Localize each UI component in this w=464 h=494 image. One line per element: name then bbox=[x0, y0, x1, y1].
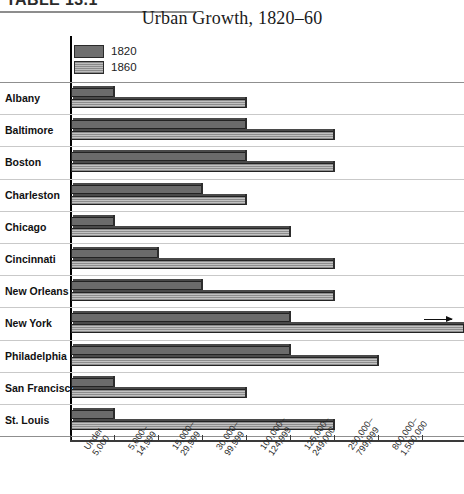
chart-legend: 1820 1860 bbox=[74, 44, 137, 76]
bar-1860-albany bbox=[71, 99, 247, 108]
bar-top-face bbox=[73, 226, 291, 228]
x-axis-tick-label: Under5,000 bbox=[82, 426, 112, 458]
bar-top-face bbox=[73, 247, 159, 249]
bar-1860-baltimore bbox=[71, 131, 335, 140]
legend-item-1820: 1820 bbox=[74, 44, 137, 58]
bar-top-face bbox=[73, 387, 247, 389]
bar-1820-philadelphia bbox=[71, 346, 291, 355]
bar-end-cap bbox=[333, 258, 335, 269]
bar-top-face bbox=[73, 150, 247, 152]
bar-overflow-arrow bbox=[424, 319, 452, 320]
x-axis-tick bbox=[334, 435, 335, 442]
bar-face bbox=[71, 357, 379, 366]
bar-top-face bbox=[73, 183, 203, 185]
bar-end-cap bbox=[245, 387, 247, 398]
row-gridline bbox=[0, 307, 464, 308]
bar-end-cap bbox=[333, 290, 335, 301]
y-axis-label-st-louis: St. Louis bbox=[5, 414, 49, 426]
bar-top-face bbox=[73, 97, 247, 99]
bar-end-cap bbox=[289, 311, 291, 322]
bar-face bbox=[71, 410, 115, 419]
row-gridline bbox=[0, 340, 464, 341]
bar-1860-boston bbox=[71, 163, 335, 172]
y-axis-label-chicago: Chicago bbox=[5, 221, 46, 233]
bar-face bbox=[71, 120, 247, 129]
bar-1820-st-louis bbox=[71, 410, 115, 419]
bar-top-face bbox=[73, 215, 115, 217]
bar-top-face bbox=[73, 290, 335, 292]
bar-top-face bbox=[73, 161, 335, 163]
y-axis-label-cincinnati: Cincinnati bbox=[5, 253, 56, 265]
bar-face bbox=[71, 217, 115, 226]
bar-top-face bbox=[73, 376, 115, 378]
bar-top-face bbox=[73, 355, 379, 357]
bar-face bbox=[71, 99, 247, 108]
bar-end-cap bbox=[113, 86, 115, 97]
legend-item-1860: 1860 bbox=[74, 60, 137, 74]
bar-face bbox=[71, 163, 335, 172]
bar-top-face bbox=[73, 258, 335, 260]
bar-top-face bbox=[73, 194, 247, 196]
x-axis-tick bbox=[158, 435, 159, 442]
bar-1860-new-york bbox=[71, 324, 464, 333]
bar-top-face bbox=[73, 322, 464, 324]
bar-end-cap bbox=[333, 129, 335, 140]
bar-end-cap bbox=[113, 215, 115, 226]
bar-1820-baltimore bbox=[71, 120, 247, 129]
x-axis-tick bbox=[70, 435, 71, 442]
bar-1860-philadelphia bbox=[71, 357, 379, 366]
bar-1820-boston bbox=[71, 152, 247, 161]
x-axis-tick bbox=[378, 435, 379, 442]
bar-end-cap bbox=[113, 408, 115, 419]
bar-face bbox=[71, 249, 159, 258]
y-axis-label-new-york: New York bbox=[5, 317, 52, 329]
bar-end-cap bbox=[289, 226, 291, 237]
bar-face bbox=[71, 324, 464, 333]
bar-top-face bbox=[73, 279, 203, 281]
bar-1860-cincinnati bbox=[71, 260, 335, 269]
bar-face bbox=[71, 88, 115, 97]
bar-1860-charleston bbox=[71, 196, 247, 205]
y-axis-label-baltimore: Baltimore bbox=[5, 124, 53, 136]
bar-face bbox=[71, 185, 203, 194]
bar-1820-cincinnati bbox=[71, 249, 159, 258]
bar-top-face bbox=[73, 344, 291, 346]
x-axis-tick bbox=[290, 435, 291, 442]
bar-face bbox=[71, 346, 291, 355]
bar-1820-new-orleans bbox=[71, 281, 203, 290]
bar-end-cap bbox=[201, 183, 203, 194]
x-axis-tick bbox=[422, 435, 423, 442]
bar-chart-plot: 1820 1860 AlbanyBaltimoreBostonCharlesto… bbox=[0, 0, 464, 494]
bar-1820-charleston bbox=[71, 185, 203, 194]
row-gridline bbox=[0, 372, 464, 373]
bar-top-face bbox=[73, 118, 247, 120]
bar-end-cap bbox=[245, 194, 247, 205]
row-gridline bbox=[0, 179, 464, 180]
bar-top-face bbox=[73, 86, 115, 88]
bar-end-cap bbox=[157, 247, 159, 258]
row-gridline bbox=[0, 114, 464, 115]
row-gridline bbox=[0, 404, 464, 405]
bar-face bbox=[71, 378, 115, 387]
bar-top-face bbox=[73, 311, 291, 313]
row-gridline bbox=[0, 82, 464, 83]
bar-face bbox=[71, 313, 291, 322]
bar-face bbox=[71, 389, 247, 398]
bar-1820-san-francisco bbox=[71, 378, 115, 387]
bar-end-cap bbox=[333, 161, 335, 172]
bar-end-cap bbox=[113, 376, 115, 387]
y-axis-label-san-francisco: San Francisco bbox=[5, 382, 77, 394]
bar-face bbox=[71, 281, 203, 290]
bar-end-cap bbox=[245, 150, 247, 161]
row-gridline bbox=[0, 275, 464, 276]
bar-1860-chicago bbox=[71, 228, 291, 237]
bar-1860-new-orleans bbox=[71, 292, 335, 301]
x-axis-tick bbox=[202, 435, 203, 442]
y-axis-label-boston: Boston bbox=[5, 156, 41, 168]
y-axis-label-new-orleans: New Orleans bbox=[5, 285, 69, 297]
bar-face bbox=[71, 260, 335, 269]
bar-face bbox=[71, 131, 335, 140]
bar-end-cap bbox=[201, 279, 203, 290]
legend-swatch-1820 bbox=[74, 45, 104, 58]
bar-end-cap bbox=[245, 118, 247, 129]
